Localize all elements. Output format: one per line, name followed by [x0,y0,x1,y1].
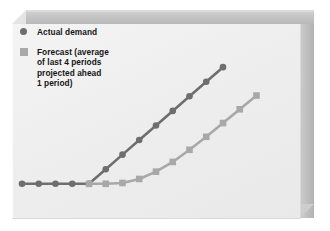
legend-label-actual-demand: Actual demand [37,27,97,38]
data-point-circle [220,64,227,71]
data-point-square [220,120,227,127]
data-point-circle [102,166,109,173]
data-point-circle [186,93,193,100]
legend-item-actual-demand: Actual demand [20,27,155,38]
frame-bevel-top-left [12,10,26,24]
data-point-circle [69,181,76,188]
forecast-chart-figure: Actual demand Forecast (average of last … [0,0,330,231]
data-point-circle [35,181,42,188]
legend-item-forecast: Forecast (average of last 4 periods proj… [20,47,155,89]
legend-circle-marker-icon [20,28,27,35]
frame-bevel-bottom-right [300,204,314,218]
legend-label-forecast: Forecast (average of last 4 periods proj… [37,47,109,89]
data-point-circle [19,181,26,188]
data-point-square [253,92,260,99]
data-point-circle [153,122,160,129]
data-point-square [153,168,160,175]
legend-marker-actual-demand [20,27,37,35]
data-point-square [102,181,109,188]
data-point-square [203,134,210,141]
legend-marker-forecast [20,47,37,56]
data-point-square [86,181,93,188]
data-point-circle [52,181,59,188]
data-point-square [186,146,193,153]
frame-slab-top-highlight [26,10,314,12]
chart-legend: Actual demand Forecast (average of last … [20,27,155,98]
data-point-square [119,180,126,187]
frame-slab-top [26,10,314,24]
data-point-circle [119,151,126,158]
data-point-circle [136,137,143,144]
data-point-square [169,159,176,166]
data-point-circle [203,78,210,85]
data-point-circle [169,108,176,115]
data-point-square [136,176,143,183]
frame-slab-right [300,24,314,218]
data-point-square [236,106,243,113]
legend-square-marker-icon [20,48,28,56]
